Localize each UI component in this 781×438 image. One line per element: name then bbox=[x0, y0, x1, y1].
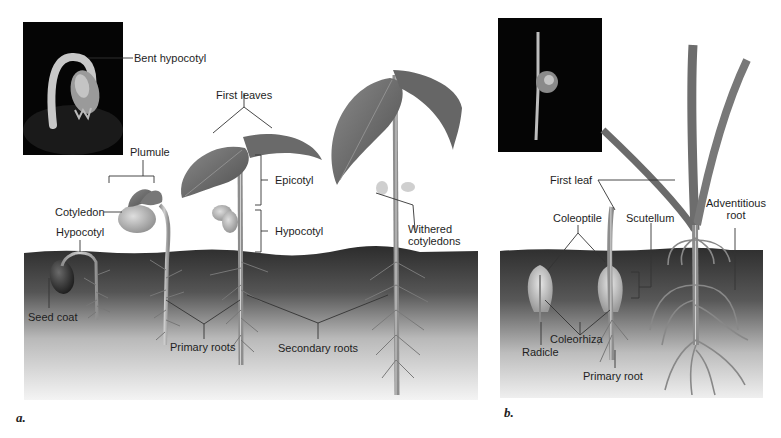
label-primary-root: Primary root bbox=[583, 370, 643, 382]
mature-leaf-left bbox=[332, 78, 403, 185]
label-first-leaf: First leaf bbox=[550, 174, 592, 186]
label-hypocotyl: Hypocotyl bbox=[275, 225, 323, 237]
label-epicotyl: Epicotyl bbox=[275, 174, 314, 186]
label-scutellum: Scutellum bbox=[626, 212, 674, 224]
label-plumule: Plumule bbox=[130, 146, 170, 158]
label-adventitious-root-line2: root bbox=[704, 209, 768, 221]
mature-leaf-right bbox=[393, 70, 462, 150]
cotyledon-shape bbox=[118, 205, 156, 233]
corn-leaf-upright bbox=[692, 45, 695, 230]
panel-letter-b: b. bbox=[504, 405, 514, 421]
first-leaf-right bbox=[243, 134, 322, 160]
label-secondary-roots: Secondary roots bbox=[278, 342, 358, 354]
label-coleorhiza: Coleorhiza bbox=[550, 333, 603, 345]
panel-letter-a: a. bbox=[16, 410, 26, 426]
label-withered-cotyledons-line2: cotyledons bbox=[408, 235, 461, 247]
label-seed-coat: Seed coat bbox=[28, 311, 78, 323]
seedling-development-figure: Bent hypocotyl Plumule Cotyledon Hypocot… bbox=[0, 0, 781, 438]
label-first-leaves: First leaves bbox=[216, 89, 272, 101]
soil-panel-a bbox=[24, 246, 478, 400]
label-bent-hypocotyl: Bent hypocotyl bbox=[134, 52, 206, 64]
label-adventitious-root-line1: Adventitious bbox=[704, 197, 768, 209]
label-cotyledon: Cotyledon bbox=[55, 206, 105, 218]
label-radicle: Radicle bbox=[522, 346, 559, 358]
label-hypocotyl-early: Hypocotyl bbox=[56, 226, 104, 238]
label-coleoptile: Coleoptile bbox=[553, 212, 602, 224]
label-withered-cotyledons-line1: Withered bbox=[408, 223, 452, 235]
label-primary-roots: Primary roots bbox=[170, 341, 235, 353]
